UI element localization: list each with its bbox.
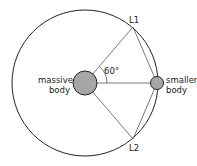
label-l2: L2 — [129, 143, 139, 153]
label-l1: L1 — [129, 15, 139, 25]
line-l1-to-smaller — [133, 27, 157, 83]
massive-body — [73, 71, 97, 95]
label-smaller-line1: smaller — [166, 75, 197, 85]
label-smaller-line2: body — [166, 85, 197, 95]
label-angle: 60° — [104, 66, 119, 76]
label-massive-line1: massive — [38, 75, 70, 85]
line-l2-to-smaller — [133, 83, 157, 139]
label-massive-line2: body — [38, 85, 70, 95]
label-massive-body: massive body — [38, 75, 70, 95]
smaller-body — [151, 77, 164, 90]
label-smaller-body: smaller body — [166, 75, 197, 95]
